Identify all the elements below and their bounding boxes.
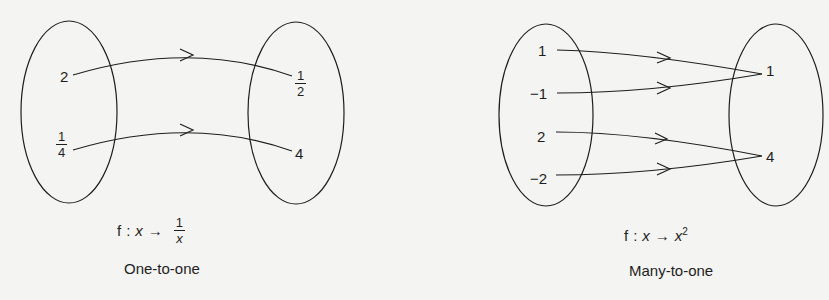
formula-fraction: 1 x xyxy=(174,216,185,245)
left-codomain-element-half: 1 2 xyxy=(295,69,306,98)
left-arrowhead-icon xyxy=(180,49,193,61)
right-diagram-caption: Many-to-one xyxy=(629,262,713,279)
left-arrowhead-icon xyxy=(180,124,193,136)
left-domain-element-quarter: 1 4 xyxy=(56,130,67,159)
left-domain-element-2: 2 xyxy=(60,69,68,84)
right-codomain-element-1: 1 xyxy=(766,63,774,78)
maps-to-arrow-icon: → xyxy=(655,227,670,244)
maps-to-arrow-icon: → xyxy=(148,222,163,239)
left-domain-set-ellipse xyxy=(21,21,117,203)
right-domain-element-neg1: −1 xyxy=(530,86,547,101)
right-codomain-element-4: 4 xyxy=(766,149,774,164)
right-domain-element-2: 2 xyxy=(537,129,545,144)
left-codomain-element-4: 4 xyxy=(295,146,303,161)
left-function-formula: f : x → 1 x xyxy=(117,216,185,245)
right-domain-element-1: 1 xyxy=(538,43,546,58)
right-codomain-set-ellipse xyxy=(729,24,823,206)
right-domain-element-neg2: −2 xyxy=(530,171,547,186)
left-codomain-set-ellipse xyxy=(248,22,344,204)
formula-result: x2 xyxy=(675,226,688,244)
mapping-diagrams-canvas xyxy=(0,0,829,300)
left-diagram-caption: One-to-one xyxy=(124,260,200,277)
right-arrowhead-icon xyxy=(657,52,670,63)
right-function-formula: f : x → x2 xyxy=(624,226,688,244)
